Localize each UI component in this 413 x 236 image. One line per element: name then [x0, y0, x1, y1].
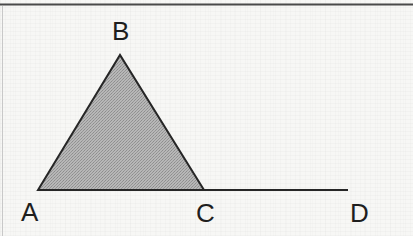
geometry-figure: B A C D — [0, 0, 413, 236]
vertex-label-d: D — [350, 200, 369, 226]
vertex-label-c: C — [196, 200, 215, 226]
triangle-ABC — [38, 55, 204, 190]
vertex-label-b: B — [112, 18, 130, 44]
vertex-label-a: A — [21, 199, 39, 225]
